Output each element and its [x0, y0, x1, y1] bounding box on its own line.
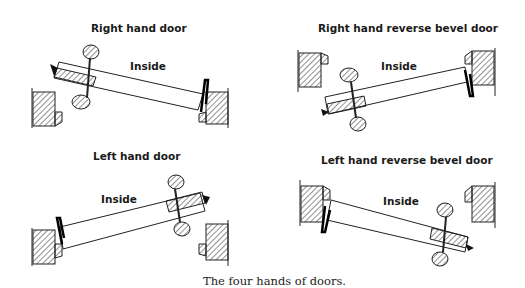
left-hand-door-diagram: [32, 175, 228, 266]
figure-caption: The four hands of doors.: [203, 274, 346, 288]
panel-title-right-hand-reverse-bevel-door: Right hand reverse bevel door: [318, 22, 498, 34]
inside-label: Inside: [101, 193, 137, 205]
door-diagrams: [0, 0, 525, 288]
right-hand-door-diagram: [32, 45, 228, 128]
panel-title-left-hand-door: Left hand door: [93, 150, 180, 162]
inside-label: Inside: [383, 195, 419, 207]
panel-title-left-hand-reverse-bevel-door: Left hand reverse bevel door: [321, 154, 493, 166]
panel-title-right-hand-door: Right hand door: [91, 22, 187, 34]
inside-label: Inside: [130, 60, 166, 72]
inside-label: Inside: [381, 60, 417, 72]
left-hand-reverse-bevel-door-diagram: [300, 180, 495, 266]
